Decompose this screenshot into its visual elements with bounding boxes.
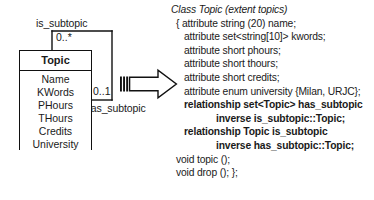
odl-line: { attribute string (20) name; (171, 17, 374, 31)
odl-line: attribute short thours; (171, 57, 374, 71)
diagram-canvas: is_subtopic 0..* 0..1 has_subtopic Topic… (0, 0, 374, 200)
association-label-has-subtopic: has_subtopic (85, 102, 146, 114)
class-attribute: THours (38, 112, 72, 125)
odl-line: inverse is_subtopic::Topic; (171, 112, 374, 126)
odl-line: void drop (); }; (171, 166, 374, 180)
class-attribute: KWords (37, 86, 74, 99)
class-name-topic: Topic (20, 51, 91, 71)
odl-line: attribute short phours; (171, 44, 374, 58)
odl-line: attribute enum university {Milan, URJC}; (171, 85, 374, 99)
odl-line: void topic (); (171, 153, 374, 167)
association-label-is-subtopic: is_subtopic (36, 17, 87, 29)
multiplicity-top: 0..* (56, 31, 72, 43)
odl-line: attribute short credits; (171, 71, 374, 85)
multiplicity-bottom: 0..1 (93, 85, 111, 97)
odl-line: inverse has_subtopic::Topic; (171, 139, 374, 153)
odl-line: relationship set<Topic> has_subtopic (171, 98, 374, 112)
uml-class-diagram: is_subtopic 0..* 0..1 has_subtopic Topic… (0, 0, 190, 200)
odl-line: attribute set<string[10]> kwords; (171, 30, 374, 44)
maps-to-arrow-icon (120, 68, 178, 100)
class-attribute: PHours (38, 99, 73, 112)
odl-line: Class Topic (extent topics) (171, 3, 374, 17)
class-attribute: Name (41, 73, 69, 86)
odl-line: relationship Topic is_subtopic (171, 125, 374, 139)
odl-schema-text: Class Topic (extent topics) { attribute … (171, 3, 374, 180)
class-attribute: University (32, 138, 78, 151)
class-attribute: Credits (39, 125, 72, 138)
class-attribute-list: Name KWords PHours THours Credits Univer… (20, 71, 91, 152)
class-box-topic[interactable]: Topic Name KWords PHours THours Credits … (19, 50, 92, 150)
